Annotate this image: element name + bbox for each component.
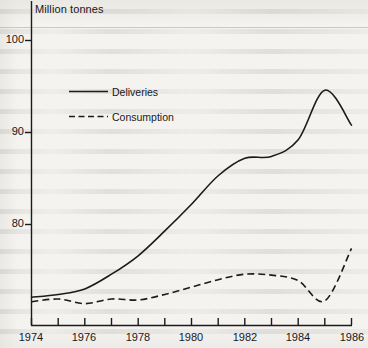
line-chart: Million tonnes 100 90 80 1974 1976 1978 … (0, 0, 368, 348)
series-line-deliveries (32, 90, 352, 297)
x-axis-ticks (32, 318, 352, 325)
series-line-consumption (32, 248, 352, 303)
plot-svg (0, 0, 368, 348)
y-axis-ticks (25, 41, 31, 225)
